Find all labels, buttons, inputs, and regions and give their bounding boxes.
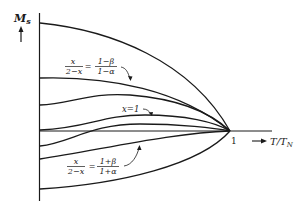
svg-text:1−β: 1−β bbox=[98, 57, 115, 66]
svg-text:T/TN: T/TN bbox=[270, 136, 294, 149]
svg-text:x: x bbox=[71, 57, 76, 66]
annotation-middle: x=1 bbox=[122, 104, 153, 116]
svg-text:x=1: x=1 bbox=[122, 104, 139, 114]
magnetization-diagram: Ms 1 T/TN x 2−x = 1−β 1−α x=1 x 2−x = 1+… bbox=[0, 0, 308, 210]
annotation-upper: x 2−x = 1−β 1−α bbox=[65, 57, 133, 81]
annotation-lower: x 2−x = 1+β 1+α bbox=[67, 145, 142, 176]
svg-text:Ms: Ms bbox=[13, 12, 31, 26]
y-axis-subscript: s bbox=[26, 16, 31, 26]
curve-6 bbox=[40, 131, 230, 159]
svg-text:2−x: 2−x bbox=[65, 67, 83, 76]
svg-text:1−α: 1−α bbox=[97, 67, 115, 76]
svg-text:2−x: 2−x bbox=[67, 167, 85, 176]
y-axis-label: M bbox=[13, 12, 27, 25]
svg-text:1+α: 1+α bbox=[99, 167, 117, 176]
svg-text:=: = bbox=[89, 162, 96, 171]
curve-7 bbox=[40, 131, 230, 189]
x-axis-label: T/T bbox=[270, 136, 288, 147]
svg-text:x: x bbox=[74, 157, 79, 166]
curve-4 bbox=[40, 115, 230, 131]
svg-text:1+β: 1+β bbox=[100, 157, 117, 166]
x-tick-1: 1 bbox=[231, 136, 237, 146]
svg-text:=: = bbox=[85, 62, 92, 71]
